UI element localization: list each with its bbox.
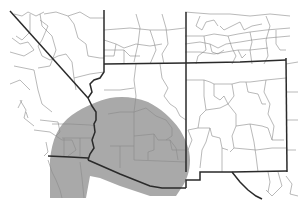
range-map: Range map of the southwestern United Sta… xyxy=(0,0,298,201)
border-california-nevada xyxy=(10,11,88,98)
county-lines-north xyxy=(104,12,290,64)
map-canvas xyxy=(0,0,298,201)
border-new-mexico-texas-south xyxy=(232,171,287,172)
border-new-mexico-texas xyxy=(286,58,287,172)
border-rio-grande xyxy=(232,172,262,199)
border-four-corners-latitude xyxy=(104,60,286,64)
border-new-mexico-mexico xyxy=(186,172,232,188)
county-lines-east xyxy=(266,62,298,196)
border-nevada-arizona xyxy=(88,64,104,98)
